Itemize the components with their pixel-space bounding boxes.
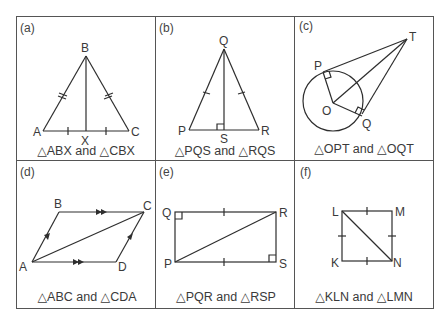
outer-border xyxy=(17,17,434,309)
point-label: D xyxy=(118,260,127,274)
panel-caption: △ABX and △CBX xyxy=(37,144,135,158)
point-label: A xyxy=(33,125,41,139)
congruent-triangles-figure: (a) B A C X △ABX and △CBX (b) Q P R S △P… xyxy=(0,0,448,324)
parallel-arrow-icon xyxy=(73,259,84,265)
panel-d: (d) B C A D △ABC and △CDA xyxy=(19,165,152,304)
point-label: R xyxy=(261,124,270,138)
panel-e: (e) Q R P S △PQR and △RSP xyxy=(159,165,288,304)
point-label: Q xyxy=(362,117,371,131)
point-label: L xyxy=(332,205,339,219)
point-label: M xyxy=(395,205,405,219)
point-label: K xyxy=(331,256,339,270)
point-label: P xyxy=(164,257,172,271)
panel-c: (c) T P O Q △OPT and △OQT xyxy=(299,19,417,156)
point-label: B xyxy=(81,41,89,55)
point-label: C xyxy=(131,125,140,139)
point-label: B xyxy=(54,197,62,211)
panel-tag: (e) xyxy=(159,165,174,179)
point-label: N xyxy=(393,256,402,270)
panel-tag: (c) xyxy=(299,19,313,33)
panel-tag: (b) xyxy=(159,21,174,35)
point-label: P xyxy=(314,59,322,73)
parallel-arrow-icon xyxy=(127,233,133,240)
point-label: O xyxy=(322,104,331,118)
point-label: A xyxy=(19,260,27,274)
panel-caption: △PQS and △RQS xyxy=(175,144,276,158)
panel-tag: (f) xyxy=(300,165,311,179)
panel-caption: △PQR and △RSP xyxy=(176,290,276,304)
point-label: T xyxy=(409,30,417,44)
point-label: R xyxy=(279,206,288,220)
point-label: P xyxy=(178,124,186,138)
point-label: C xyxy=(143,199,152,213)
panel-tag: (d) xyxy=(20,165,35,179)
point-label: Q xyxy=(219,34,228,48)
panel-caption: △ABC and △CDA xyxy=(37,290,137,304)
point-label: S xyxy=(279,257,287,271)
panel-b: (b) Q P R S △PQS and △RQS xyxy=(159,21,275,158)
panel-tag: (a) xyxy=(20,21,35,35)
point-label: Q xyxy=(162,206,171,220)
panel-grid xyxy=(16,16,434,309)
panel-caption: △KLN and △LMN xyxy=(315,290,413,304)
panel-a: (a) B A C X △ABX and △CBX xyxy=(20,21,140,158)
panel-caption: △OPT and △OQT xyxy=(314,142,414,156)
parallel-arrow-icon xyxy=(96,209,107,215)
panel-f: (f) L M K N △KLN and △LMN xyxy=(300,165,413,304)
